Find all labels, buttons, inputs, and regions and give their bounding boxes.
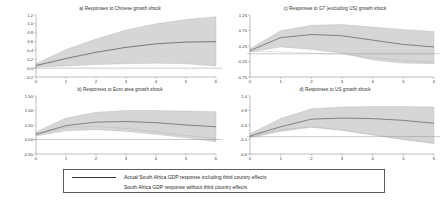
- ytick-c-2: 0.25: [239, 44, 248, 49]
- confidence-band-d: [250, 106, 434, 143]
- ytick-a-2: 0.8: [27, 30, 33, 35]
- chart-c: 1.250.750.25-0.25-0.750123456: [228, 13, 442, 89]
- panel-b-euro-area-growth-shock: b) Responses to Euro area growth shock 1…: [16, 87, 224, 167]
- legend-label-without-third-country: South Africa GDP response without third …: [124, 184, 247, 190]
- xtick-a-0: 0: [35, 79, 38, 84]
- ytick-c-4: -0.75: [237, 75, 247, 80]
- xtick-b-3: 3: [125, 156, 128, 161]
- panel-a-plot: 1.21.00.80.60.40.20.0-0.20123456: [16, 13, 224, 89]
- ytick-d-4: -0.6: [240, 152, 248, 157]
- panel-c-g7-excluding-us-growth-shock: c) Responses to G7 (excluding US) growth…: [228, 6, 442, 90]
- ytick-a-0: 1.2: [27, 13, 33, 18]
- legend-box: Actual South Africa GDP response includi…: [63, 169, 385, 193]
- legend-solid-line-icon: [72, 174, 116, 180]
- ytick-d-1: 0.9: [241, 108, 247, 113]
- chart-d: 1.40.90.4-0.1-0.60123456: [228, 94, 442, 166]
- ytick-c-3: -0.25: [237, 59, 247, 64]
- ytick-b-4: -0.50: [23, 152, 33, 157]
- xtick-a-3: 3: [125, 79, 128, 84]
- xtick-a-4: 4: [155, 79, 158, 84]
- xtick-c-2: 2: [310, 79, 313, 84]
- xtick-c-3: 3: [341, 79, 344, 84]
- panel-a-chinese-growth-shock: a) Responses to Chinese growth shock 1.2…: [16, 6, 224, 90]
- ytick-a-5: 0.2: [27, 57, 33, 62]
- panel-c-title: c) Responses to G7 (excluding US) growth…: [228, 6, 442, 11]
- ytick-a-7: -0.2: [26, 75, 34, 80]
- xtick-b-0: 0: [35, 156, 38, 161]
- ytick-c-1: 0.75: [239, 28, 248, 33]
- ytick-d-3: -0.1: [240, 137, 248, 142]
- panel-d-title: d) Responses to US growth shock: [228, 87, 442, 92]
- ytick-a-1: 1.0: [27, 21, 33, 26]
- figure-impulse-response-panels: a) Responses to Chinese growth shock 1.2…: [0, 0, 448, 203]
- xtick-c-0: 0: [249, 79, 252, 84]
- xtick-c-4: 4: [371, 79, 374, 84]
- chart-b: 1.501.000.500.00-0.500123456: [16, 94, 224, 166]
- confidence-band-b: [36, 111, 216, 142]
- panel-d-plot: 1.40.90.4-0.1-0.60123456: [228, 94, 442, 166]
- ytick-b-0: 1.50: [25, 94, 34, 99]
- ytick-d-2: 0.4: [241, 123, 247, 128]
- legend-entry-actual: Actual South Africa GDP response includi…: [72, 172, 266, 182]
- panel-a-title: a) Responses to Chinese growth shock: [16, 6, 224, 11]
- ytick-d-0: 1.4: [241, 94, 247, 99]
- legend-label-actual: Actual South Africa GDP response includi…: [124, 174, 266, 180]
- xtick-b-1: 1: [65, 156, 68, 161]
- ytick-b-3: 0.00: [25, 137, 34, 142]
- ytick-a-4: 0.4: [27, 48, 33, 53]
- chart-a: 1.21.00.80.60.40.20.0-0.20123456: [16, 13, 224, 89]
- xtick-d-2: 2: [310, 156, 313, 161]
- xtick-a-6: 6: [215, 79, 218, 84]
- xtick-a-5: 5: [185, 79, 188, 84]
- xtick-d-3: 3: [341, 156, 344, 161]
- xtick-c-1: 1: [279, 79, 282, 84]
- ytick-b-2: 0.50: [25, 123, 34, 128]
- ytick-b-1: 1.00: [25, 108, 34, 113]
- legend-dotted-line-icon: [72, 184, 116, 190]
- ytick-a-3: 0.6: [27, 39, 33, 44]
- legend-entry-without-third-country: South Africa GDP response without third …: [72, 182, 247, 192]
- xtick-d-6: 6: [433, 156, 436, 161]
- xtick-d-0: 0: [249, 156, 252, 161]
- xtick-b-2: 2: [95, 156, 98, 161]
- panel-d-us-growth-shock: d) Responses to US growth shock 1.40.90.…: [228, 87, 442, 167]
- ytick-a-6: 0.0: [27, 66, 33, 71]
- xtick-b-4: 4: [155, 156, 158, 161]
- xtick-a-2: 2: [95, 79, 98, 84]
- xtick-c-5: 5: [402, 79, 405, 84]
- panel-c-plot: 1.250.750.25-0.25-0.750123456: [228, 13, 442, 89]
- xtick-d-5: 5: [402, 156, 405, 161]
- xtick-d-4: 4: [371, 156, 374, 161]
- panel-b-title: b) Responses to Euro area growth shock: [16, 87, 224, 92]
- ytick-c-0: 1.25: [239, 13, 248, 18]
- xtick-b-6: 6: [215, 156, 218, 161]
- xtick-c-6: 6: [433, 79, 436, 84]
- panel-b-plot: 1.501.000.500.00-0.500123456: [16, 94, 224, 166]
- xtick-b-5: 5: [185, 156, 188, 161]
- xtick-d-1: 1: [279, 156, 282, 161]
- xtick-a-1: 1: [65, 79, 68, 84]
- confidence-band-c: [250, 25, 434, 64]
